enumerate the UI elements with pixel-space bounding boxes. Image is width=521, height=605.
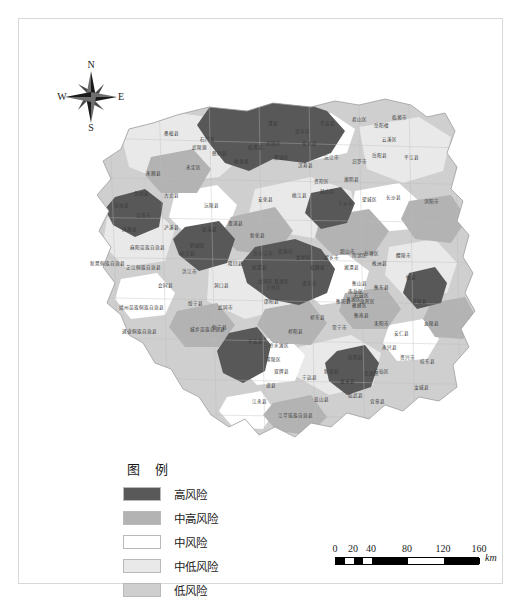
county-label: 绥宁县 bbox=[188, 300, 203, 307]
county-label: 衡山县 bbox=[352, 280, 367, 287]
county-label: 永定区 bbox=[186, 164, 201, 171]
county-label: 汝城县 bbox=[414, 384, 429, 391]
county-label: 株洲县 bbox=[372, 260, 387, 267]
county-label: 大祥区 bbox=[266, 284, 281, 291]
legend-label-mid-low: 中低风险 bbox=[174, 558, 218, 574]
county-label: 永顺县 bbox=[146, 170, 161, 177]
county-label: 桂东县 bbox=[420, 358, 435, 365]
legend: 图 例 高风险 中高风险 中风险 中低风险 低风险 bbox=[123, 459, 263, 605]
scale-tick-120: 120 bbox=[436, 543, 451, 554]
scale-tick-0: 0 bbox=[333, 543, 338, 554]
legend-label-high: 高风险 bbox=[174, 486, 207, 502]
county-label: 嘉禾县 bbox=[340, 378, 355, 385]
county-label: 保靖县 bbox=[134, 190, 149, 197]
county-label: 永兴县 bbox=[382, 344, 397, 351]
county-label: 武陵源 bbox=[192, 144, 207, 151]
county-label: 攸县 bbox=[406, 274, 416, 281]
county-label: 桃江县 bbox=[292, 192, 307, 199]
county-label: 芷江侗族自治县 bbox=[126, 264, 161, 271]
county-label: 临湘市 bbox=[392, 114, 407, 121]
county-label: 浏阳市 bbox=[424, 198, 439, 205]
county-label: 衡东县 bbox=[374, 284, 389, 291]
county-label: 津市市 bbox=[295, 128, 310, 135]
county-label: 古丈县 bbox=[164, 192, 179, 199]
county-label: 双峰县 bbox=[310, 264, 325, 271]
county-label: 安仁县 bbox=[394, 330, 409, 337]
county-label: 辰溪县 bbox=[202, 226, 217, 233]
map-figure-frame: N E S W bbox=[18, 18, 503, 584]
county-label: 新邵县 bbox=[252, 264, 267, 271]
county-label: 云溪区 bbox=[382, 136, 397, 143]
county-label: 宜章县 bbox=[370, 398, 385, 405]
county-label: 桂阳县 bbox=[348, 354, 363, 361]
county-label: 雁峰区 bbox=[352, 302, 367, 309]
county-label: 花垣县 bbox=[114, 202, 129, 209]
county-label: 靖州苗族侗族自治县 bbox=[119, 304, 164, 311]
county-label: 洞口县 bbox=[214, 282, 229, 289]
county-label: 通道侗族自治县 bbox=[122, 328, 157, 335]
county-label: 鹤城区 bbox=[190, 242, 205, 249]
legend-swatch-mid-low bbox=[123, 559, 161, 573]
county-label: 东安县 bbox=[248, 338, 263, 345]
county-label: 蓝山县 bbox=[314, 396, 329, 403]
county-label: 苏仙区 bbox=[374, 368, 389, 375]
county-label: 新宁县 bbox=[212, 324, 227, 331]
county-label: 常宁市 bbox=[332, 324, 347, 331]
scale-tick-20: 20 bbox=[348, 543, 358, 554]
county-label: 澧县 bbox=[268, 120, 278, 127]
county-label: 江华瑶族自治县 bbox=[278, 412, 313, 419]
choropleth-map: 石门县临澧县澧县津市市安乡县华容县君山区岳阳楼临湘市云溪区岳阳县平江县汨罗市湘阴… bbox=[59, 97, 499, 447]
county-label: 祁东县 bbox=[310, 314, 325, 321]
legend-item-mid-low: 中低风险 bbox=[123, 557, 263, 575]
scale-bar-track bbox=[335, 557, 479, 565]
county-label: 资兴市 bbox=[400, 354, 415, 361]
county-label: 冷水江市 bbox=[253, 250, 273, 257]
county-label: 新田县 bbox=[324, 368, 339, 375]
county-label: 湘潭县 bbox=[344, 264, 359, 271]
county-label: 湘阴县 bbox=[344, 176, 359, 183]
scale-tick-40: 40 bbox=[366, 543, 376, 554]
legend-swatch-mid bbox=[123, 535, 161, 549]
county-label: 洪江市 bbox=[182, 268, 197, 275]
county-label: 吉首市 bbox=[136, 212, 151, 219]
county-label: 君山区 bbox=[352, 116, 367, 123]
county-label: 麻阳苗族自治县 bbox=[130, 244, 165, 251]
county-label: 安乡县 bbox=[302, 140, 317, 147]
county-label: 双牌县 bbox=[274, 368, 289, 375]
legend-item-high: 高风险 bbox=[123, 485, 263, 503]
county-label: 宁远县 bbox=[302, 374, 317, 381]
legend-label-mid: 中风险 bbox=[174, 534, 207, 550]
scale-tick-80: 80 bbox=[402, 543, 412, 554]
compass-north-label: N bbox=[87, 59, 94, 70]
legend-swatch-high bbox=[123, 487, 161, 501]
county-label: 汨罗市 bbox=[352, 158, 367, 165]
scale-bar-unit: km bbox=[485, 552, 497, 563]
legend-item-mid-high: 中高风险 bbox=[123, 509, 263, 527]
county-label: 石鼓区 bbox=[354, 292, 369, 299]
county-label: 武陵区 bbox=[266, 140, 281, 147]
county-label: 资阳区 bbox=[314, 178, 329, 185]
county-label: 耒阳市 bbox=[374, 320, 389, 327]
map-risk-surface bbox=[59, 97, 499, 447]
county-label: 新晃侗族自治县 bbox=[90, 260, 125, 267]
county-label: 双清区 bbox=[274, 278, 289, 285]
county-label: 长沙县 bbox=[386, 194, 401, 201]
legend-swatch-mid-high bbox=[123, 511, 161, 525]
county-label: 北塔区 bbox=[258, 278, 273, 285]
county-label: 桃源县 bbox=[234, 158, 249, 165]
county-label: 隆回县 bbox=[228, 260, 243, 267]
county-label: 望城区 bbox=[362, 196, 377, 203]
county-label: 慈利县 bbox=[212, 150, 227, 157]
county-label: 零陵区 bbox=[266, 356, 281, 363]
county-label: 中方县 bbox=[180, 250, 195, 257]
scale-seg-1 bbox=[336, 558, 345, 564]
county-label: 桑植县 bbox=[164, 130, 179, 137]
county-label: 邵东市 bbox=[302, 280, 317, 287]
county-label: 新化县 bbox=[250, 232, 265, 239]
county-label: 会同县 bbox=[158, 282, 173, 289]
scale-seg-2 bbox=[354, 558, 363, 564]
county-label: 江永县 bbox=[252, 398, 267, 405]
county-label: 华容县 bbox=[320, 120, 335, 127]
county-label: 岳塘区 bbox=[364, 250, 379, 257]
scale-seg-4 bbox=[444, 558, 480, 564]
